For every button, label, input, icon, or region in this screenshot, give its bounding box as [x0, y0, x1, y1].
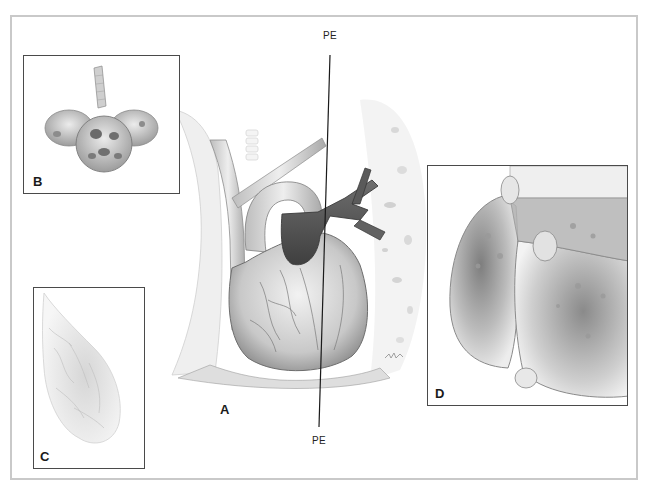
panel-c: C — [33, 287, 145, 469]
panel-label-b: B — [33, 174, 42, 189]
panel-label-a: A — [220, 402, 229, 417]
pe-callout-top: PE — [323, 30, 337, 41]
panel-d: D — [427, 165, 628, 406]
panel-b: B — [23, 55, 180, 194]
lung-texture — [360, 100, 426, 380]
trachea — [246, 130, 258, 160]
panel-label-d: D — [435, 386, 444, 401]
lung-tissue-section-illustration — [428, 166, 628, 406]
pe-callout-bottom: PE — [312, 435, 326, 446]
panel-label-c: C — [40, 449, 49, 464]
pale-lobule-illustration — [34, 288, 145, 469]
alveolar-cluster-illustration — [24, 56, 180, 194]
